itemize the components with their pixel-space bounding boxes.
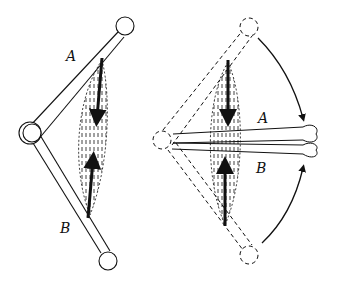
motion-arrow-top bbox=[258, 38, 303, 118]
label-a-left: A bbox=[66, 48, 76, 64]
diagram: A B A B bbox=[0, 0, 338, 287]
bone-b-right bbox=[172, 143, 317, 157]
left-panel bbox=[19, 17, 134, 270]
muscle-bone-diagram bbox=[0, 0, 338, 287]
motion-arrow-bottom bbox=[262, 168, 303, 243]
label-b-left: B bbox=[60, 220, 70, 236]
bone-a-right bbox=[173, 125, 317, 143]
muscle-left bbox=[79, 60, 108, 215]
label-b-right: B bbox=[256, 160, 266, 176]
right-panel bbox=[153, 18, 317, 264]
label-a-right: A bbox=[258, 110, 268, 126]
